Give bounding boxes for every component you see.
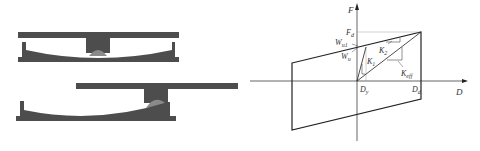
label-dd: Dd — [411, 85, 422, 95]
diagram-labels: F D Fd Wu1 Wu K1 K2 Keff Dy Dd — [335, 5, 463, 97]
bearing-centered — [18, 32, 179, 62]
k2-leader — [388, 41, 392, 44]
keff-slope-triangle — [387, 47, 402, 60]
label-k2: K2 — [378, 46, 387, 56]
label-wu1: Wu1 — [335, 38, 348, 48]
label-k1: K1 — [366, 57, 375, 67]
x-axis-label: D — [455, 87, 463, 97]
label-fd: Fd — [345, 28, 355, 38]
keff-leader — [398, 61, 403, 67]
y-axis-label: F — [347, 5, 354, 15]
figure-canvas: F D Fd Wu1 Wu K1 K2 Keff Dy Dd — [0, 0, 480, 151]
hysteresis-diagram — [250, 3, 468, 141]
y-axis-arrow-icon — [355, 3, 359, 10]
bearing-displaced — [16, 83, 238, 121]
label-wu: Wu — [341, 52, 351, 62]
label-keff: Keff — [400, 69, 414, 79]
top-plate — [18, 32, 179, 38]
top-plate — [76, 83, 238, 89]
label-dy: Dy — [359, 85, 369, 95]
k1-line — [357, 47, 366, 81]
x-axis-arrow-icon — [462, 79, 468, 83]
k1-slope-triangle — [362, 64, 365, 74]
